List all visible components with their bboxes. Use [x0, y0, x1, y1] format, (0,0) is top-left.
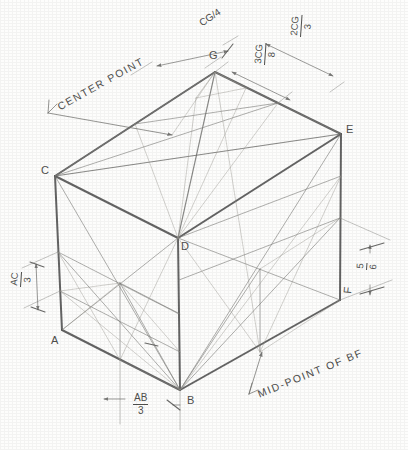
dimension-bf-5-6-denominator: 6	[366, 263, 378, 271]
dimension-2cg-3-numerator: 2CG	[289, 15, 301, 37]
dimension-text-2cg-3: 2CG 3	[289, 15, 312, 38]
dimension-2cg-3-denominator: 3	[300, 15, 313, 37]
vertex-label-d: D	[181, 240, 189, 252]
locator-arrow-left-face	[145, 343, 158, 346]
cube-outline	[55, 72, 341, 390]
dimension-3cg-8	[215, 62, 292, 103]
vertex-label-g: G	[209, 49, 218, 61]
right-face-construction	[178, 72, 341, 390]
dimension-text-3cg-8: 3CG 8	[253, 43, 276, 66]
dimension-3cg-8-denominator: 8	[264, 43, 277, 65]
dimension-text-bf-5-6: 5 6	[355, 262, 377, 271]
dimension-text-ac-3: AC 3	[9, 271, 32, 288]
dimension-ac-3-denominator: 3	[20, 272, 33, 288]
dimension-ab-3-numerator: AB	[133, 393, 148, 404]
dimension-ac-3-numerator: AC	[9, 271, 21, 287]
left-face-construction	[58, 238, 180, 390]
vertex-label-e: E	[346, 123, 354, 135]
dimension-bf-5-6-numerator: 5	[355, 262, 366, 270]
drawing-canvas: A B C D E F G CENTER POINT MID-POINT OF …	[0, 0, 408, 450]
vertex-label-c: C	[41, 164, 49, 176]
dimension-ab-3-denominator: 3	[133, 404, 148, 416]
vertex-label-a: A	[51, 334, 59, 346]
vertex-label-f: F	[341, 286, 354, 294]
face-diagonals	[55, 72, 341, 390]
dimension-2cg-3	[223, 36, 344, 92]
vertex-label-b: B	[187, 394, 195, 406]
isometric-cube-sketch	[0, 0, 408, 450]
dimension-3cg-8-numerator: 3CG	[253, 43, 265, 65]
dimension-text-ab-3: AB 3	[133, 393, 148, 416]
